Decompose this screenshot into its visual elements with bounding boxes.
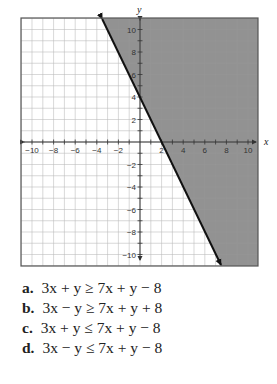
answer-choice-b[interactable]: b. 3x − y ≥ 7x + y + 8 (22, 298, 162, 318)
x-tick-label: 8 (224, 146, 229, 155)
answer-choices: a. 3x + y ≥ 7x + y − 8 b. 3x − y ≥ 7x + … (22, 278, 162, 358)
y-tick-label: −2 (127, 161, 137, 170)
answer-letter: c. (22, 319, 33, 336)
y-tick-label: −8 (127, 228, 137, 237)
x-axis-label: x (263, 136, 269, 147)
answer-expression: 3x + y ≤ 7x + y − 8 (41, 319, 161, 336)
y-tick-label: 6 (132, 71, 137, 80)
x-tick-label: −4 (92, 146, 102, 155)
y-tick-label: −10 (122, 251, 136, 260)
answer-letter: a. (22, 279, 34, 296)
y-tick-label: −6 (127, 206, 137, 215)
x-tick-label: 4 (181, 146, 186, 155)
answer-choice-a[interactable]: a. 3x + y ≥ 7x + y − 8 (22, 278, 162, 298)
x-tick-label: −10 (25, 146, 39, 155)
answer-expression: 3x − y ≤ 7x + y − 8 (42, 339, 162, 356)
answer-expression: 3x − y ≥ 7x + y + 8 (42, 299, 162, 316)
x-tick-label: −2 (114, 146, 124, 155)
x-tick-label: −8 (49, 146, 59, 155)
inequality-graph: −10−8−6−4−2246810108642−2−4−6−8−10 x y (0, 0, 277, 272)
y-axis-label: y (136, 4, 142, 15)
x-tick-label: 10 (244, 146, 253, 155)
x-tick-label: 6 (203, 146, 208, 155)
y-tick-label: 8 (132, 48, 137, 57)
answer-letter: b. (22, 299, 35, 316)
coordinate-plane: −10−8−6−4−2246810108642−2−4−6−8−10 x y (0, 0, 277, 272)
answer-expression: 3x + y ≥ 7x + y − 8 (42, 279, 162, 296)
answer-choice-c[interactable]: c. 3x + y ≤ 7x + y − 8 (22, 318, 162, 338)
y-tick-label: 4 (132, 93, 137, 102)
x-tick-label: −6 (71, 146, 81, 155)
y-tick-label: 2 (132, 116, 137, 125)
answer-choice-d[interactable]: d. 3x − y ≤ 7x + y − 8 (22, 338, 162, 358)
y-tick-label: 10 (127, 26, 136, 35)
answer-letter: d. (22, 339, 35, 356)
y-tick-label: −4 (127, 183, 137, 192)
